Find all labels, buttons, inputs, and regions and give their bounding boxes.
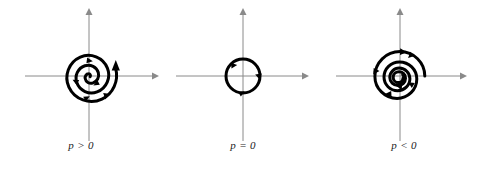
trajectory-group xyxy=(226,59,262,97)
x-axis-arrow-icon xyxy=(460,73,467,80)
trajectory-group xyxy=(373,48,425,98)
x-axis-arrow-icon xyxy=(302,73,309,80)
panel-unstable-spiral: p > 0 xyxy=(0,0,162,169)
flow-arrow-icon xyxy=(400,48,407,55)
axes-group xyxy=(25,8,159,141)
y-axis-arrow-icon xyxy=(86,8,93,15)
unstable-spiral-curve xyxy=(67,55,117,101)
x-axis-arrow-icon xyxy=(152,73,159,80)
panel-stable-spiral: p < 0 xyxy=(323,0,485,169)
phase-portrait-figure: p > 0 p = 0 xyxy=(0,0,485,169)
flow-arrow-icon xyxy=(231,63,237,69)
y-axis-arrow-icon xyxy=(397,8,404,15)
trajectory-group xyxy=(67,55,120,101)
panel-label-p-equals-zero: p = 0 xyxy=(162,139,324,151)
panel-label-p-less-than-zero: p < 0 xyxy=(323,139,485,151)
y-axis-arrow-icon xyxy=(240,8,247,15)
panel-label-p-greater-than-zero: p > 0 xyxy=(0,139,162,151)
panel-center: p = 0 xyxy=(162,0,324,169)
flow-arrow-icon xyxy=(86,58,92,64)
axes-group xyxy=(176,8,309,141)
flow-arrow-terminal-icon xyxy=(112,60,120,70)
